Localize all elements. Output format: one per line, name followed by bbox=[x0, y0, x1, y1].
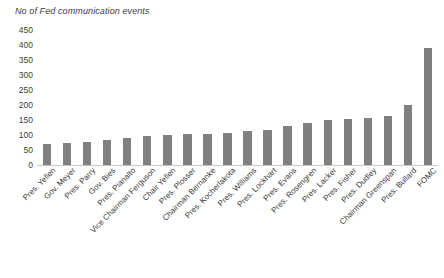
bar bbox=[83, 142, 91, 165]
y-axis-tick-label: 0 bbox=[0, 160, 33, 170]
bar bbox=[103, 140, 111, 165]
bar-slot bbox=[404, 30, 412, 165]
bar-series bbox=[37, 30, 438, 165]
bar bbox=[364, 118, 372, 165]
y-axis-tick-label: 100 bbox=[0, 130, 33, 140]
bar-slot bbox=[103, 30, 111, 165]
bar-slot bbox=[123, 30, 131, 165]
bar-slot bbox=[223, 30, 231, 165]
y-axis-tick-label: 400 bbox=[0, 40, 33, 50]
bar bbox=[303, 123, 311, 165]
bar bbox=[404, 105, 412, 165]
bar bbox=[123, 138, 131, 165]
bar bbox=[43, 144, 51, 165]
bar bbox=[243, 131, 251, 165]
y-axis: 450400350300250200150100500 bbox=[0, 24, 33, 165]
bar bbox=[424, 48, 432, 165]
x-axis-tick-label: FOMC bbox=[415, 166, 438, 189]
bar bbox=[384, 116, 392, 166]
bar-slot bbox=[143, 30, 151, 165]
bar bbox=[203, 134, 211, 166]
y-axis-tick-label: 450 bbox=[0, 25, 33, 35]
bar-slot bbox=[384, 30, 392, 165]
bar bbox=[263, 130, 271, 165]
y-axis-tick-label: 150 bbox=[0, 115, 33, 125]
bar-slot bbox=[263, 30, 271, 165]
bar-slot bbox=[303, 30, 311, 165]
bar-slot bbox=[183, 30, 191, 165]
bar bbox=[344, 119, 352, 165]
bar bbox=[223, 133, 231, 165]
y-axis-tick-label: 300 bbox=[0, 70, 33, 80]
bar bbox=[324, 120, 332, 165]
y-axis-tick-label: 50 bbox=[0, 145, 33, 155]
bar-slot bbox=[203, 30, 211, 165]
bar-chart: No of Fed communication events 450400350… bbox=[0, 0, 444, 278]
bar-slot bbox=[344, 30, 352, 165]
bar-slot bbox=[243, 30, 251, 165]
y-axis-tick-label: 250 bbox=[0, 85, 33, 95]
bar-slot bbox=[163, 30, 171, 165]
bar bbox=[283, 126, 291, 165]
y-axis-tick-label: 200 bbox=[0, 100, 33, 110]
bar bbox=[163, 135, 171, 165]
bar-slot bbox=[324, 30, 332, 165]
bar-slot bbox=[364, 30, 372, 165]
bar bbox=[143, 136, 151, 165]
bar-slot bbox=[43, 30, 51, 165]
bar-slot bbox=[83, 30, 91, 165]
x-axis-labels: Pres. YellenGov. MeyerPres. ParryGov. Bi… bbox=[37, 166, 438, 278]
bar-slot bbox=[63, 30, 71, 165]
bar-slot bbox=[283, 30, 291, 165]
bar bbox=[183, 134, 191, 166]
y-axis-tick-label: 350 bbox=[0, 55, 33, 65]
bar-slot bbox=[424, 30, 432, 165]
bar bbox=[63, 143, 71, 166]
chart-title: No of Fed communication events bbox=[15, 6, 150, 16]
